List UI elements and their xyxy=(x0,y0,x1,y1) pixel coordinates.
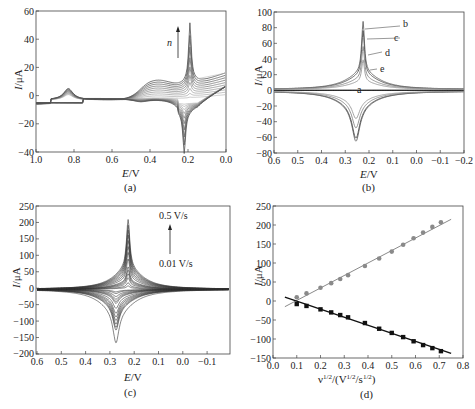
y-tick-label: −40 xyxy=(18,147,34,158)
curve-label-b: b xyxy=(403,18,408,29)
panel-label-c: (c) xyxy=(124,386,137,399)
x-axis-title-d: ν1/2/(V1/2/s1/2) xyxy=(318,373,376,386)
cv-curve-d xyxy=(274,47,464,90)
data-point-anodic xyxy=(377,256,382,261)
x-tick-label: 0.0 xyxy=(220,154,233,165)
y-tick-label: 150 xyxy=(256,239,271,250)
y-axis-title-c: I/μA xyxy=(10,267,22,289)
cv-curve-c xyxy=(274,92,464,138)
y-tick-label: −60 xyxy=(256,132,272,143)
data-point-anodic xyxy=(411,236,416,241)
x-tick-label: −0.1 xyxy=(431,155,449,166)
x-tick-label: 0.2 xyxy=(128,356,141,367)
x-tick-label: 0.4 xyxy=(315,155,328,166)
plot-frame-b xyxy=(274,12,464,153)
cv-curve xyxy=(37,230,229,289)
x-tick-label: 0.5 xyxy=(292,155,305,166)
cv-curves-a xyxy=(36,23,226,154)
curve-label-c: c xyxy=(394,32,399,43)
data-point-anodic xyxy=(294,295,299,300)
x-axis-title-b: E/V xyxy=(359,168,378,180)
data-point-anodic xyxy=(363,264,368,269)
curve-label-a: a xyxy=(357,84,362,95)
arrowhead-icon xyxy=(168,224,172,230)
x-tick-label: 0.0 xyxy=(177,356,190,367)
panel-label-b: (b) xyxy=(362,181,375,194)
panel-b: 0.60.50.40.30.20.10.0−0.1−0.210080604020… xyxy=(252,7,473,195)
data-point-anodic xyxy=(401,242,406,247)
y-tick-label: −50 xyxy=(18,299,34,310)
cv-curve xyxy=(37,225,229,289)
x-tick-label: 0.4 xyxy=(144,154,157,165)
data-point-anodic xyxy=(389,249,394,254)
y-tick-label: 0 xyxy=(266,296,271,307)
x-tick-label: 0.3 xyxy=(339,155,352,166)
leader-line-b xyxy=(365,26,400,29)
y-tick-label: 250 xyxy=(19,201,34,212)
x-tick-label: 0.2 xyxy=(182,154,195,165)
data-point-anodic xyxy=(338,277,343,282)
data-point-cathodic xyxy=(430,346,434,350)
data-point-cathodic xyxy=(295,302,299,306)
cv-curve xyxy=(37,220,229,289)
x-tick-label: 0.8 xyxy=(68,154,81,165)
axis-ticks-d: 0.00.10.20.30.40.50.60.70.82502001501005… xyxy=(250,201,469,372)
x-tick-label: 0.2 xyxy=(314,360,327,371)
y-tick-label: 250 xyxy=(256,201,271,212)
y-tick-label: −150 xyxy=(13,332,34,343)
leader-line-e xyxy=(370,69,377,70)
scatter-d xyxy=(285,219,451,353)
panel-label-a: (a) xyxy=(124,181,137,194)
x-tick-label: 0.6 xyxy=(409,360,422,371)
data-point-cathodic xyxy=(329,310,333,314)
y-tick-label: 20 xyxy=(24,62,34,73)
plot-frame-c xyxy=(36,206,230,354)
data-point-cathodic xyxy=(439,349,443,353)
x-tick-label: 0.4 xyxy=(79,356,92,367)
figure: 1.00.80.60.40.20.06040200−20−40 n I/μA E… xyxy=(0,0,475,409)
y-tick-label: 150 xyxy=(19,233,34,244)
y-tick-label: 100 xyxy=(257,7,272,18)
data-point-anodic xyxy=(439,220,444,225)
y-tick-label: −20 xyxy=(256,101,272,112)
data-point-cathodic xyxy=(421,343,425,347)
axis-ticks-b: 0.60.50.40.30.20.10.0−0.1−0.210080604020… xyxy=(256,7,473,167)
arrow-label-n: n xyxy=(167,37,172,48)
x-tick-label: 0.6 xyxy=(106,154,119,165)
x-tick-label: 0.3 xyxy=(104,356,117,367)
fit-line-anodic xyxy=(285,219,451,306)
cv-curve-b xyxy=(274,21,464,89)
y-tick-label: −50 xyxy=(255,315,271,326)
data-point-cathodic xyxy=(401,335,405,339)
cv-curve-e xyxy=(274,60,464,90)
y-tick-label: 50 xyxy=(24,266,34,277)
y-tick-label: 0 xyxy=(267,85,272,96)
x-tick-label: 0.7 xyxy=(433,360,446,371)
cv-cycle xyxy=(36,23,225,104)
x-tick-label: −0.2 xyxy=(455,155,473,166)
data-point-cathodic xyxy=(346,315,350,319)
cv-curves-c xyxy=(37,220,229,343)
x-tick-label: 0.4 xyxy=(362,360,375,371)
data-point-anodic xyxy=(421,230,426,235)
plot-frame-a xyxy=(36,11,226,152)
y-tick-label: 100 xyxy=(19,250,34,261)
x-tick-label: −0.1 xyxy=(198,356,216,367)
data-point-cathodic xyxy=(390,331,394,335)
y-tick-label: 60 xyxy=(24,6,34,17)
data-point-cathodic xyxy=(338,313,342,317)
x-tick-label: 0.8 xyxy=(457,360,470,371)
y-tick-label: 80 xyxy=(262,22,272,33)
curve-label-d: d xyxy=(385,47,390,58)
data-point-anodic xyxy=(318,285,323,290)
panel-a: 1.00.80.60.40.20.06040200−20−40 n I/μA E… xyxy=(12,6,232,195)
y-tick-label: 200 xyxy=(256,220,271,231)
cv-curve xyxy=(37,290,229,324)
y-tick-label: −100 xyxy=(13,316,34,327)
y-tick-label: −80 xyxy=(256,148,272,159)
axis-ticks-c: 0.60.50.40.30.20.10.0−0.1250200150100500… xyxy=(13,201,216,368)
x-tick-label: 0.1 xyxy=(291,360,304,371)
y-tick-label: 60 xyxy=(262,38,272,49)
data-point-cathodic xyxy=(318,307,322,311)
y-tick-label: 0 xyxy=(29,283,34,294)
